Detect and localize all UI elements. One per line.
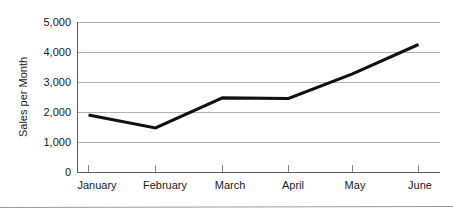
y-tick-label-4000: 4,000 [43, 46, 71, 58]
x-tick-label-march: March [215, 179, 246, 191]
y-tick-label-5000: 5,000 [43, 16, 71, 28]
y-tick-label-1000: 1,000 [43, 136, 71, 148]
y-tick-label-0: 0 [65, 166, 71, 178]
x-tick-label-june: June [408, 179, 432, 191]
x-tick-label-may: May [345, 179, 366, 191]
x-tick-label-february: February [143, 179, 188, 191]
x-tick-label-january: January [77, 179, 117, 191]
y-axis-title: Sales per Month [17, 57, 29, 137]
x-tick-label-april: April [282, 179, 304, 191]
line-chart: 0 1,000 2,000 3,000 4,000 5,000 January … [0, 0, 453, 215]
y-tick-label-2000: 2,000 [43, 106, 71, 118]
y-tick-label-3000: 3,000 [43, 76, 71, 88]
chart-figure: 0 1,000 2,000 3,000 4,000 5,000 January … [0, 0, 453, 215]
